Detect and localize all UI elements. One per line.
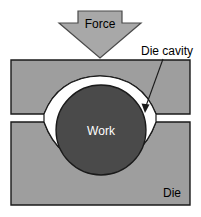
die-label: Die [163,186,181,200]
force-arrow: Force [59,11,141,58]
force-label: Force [85,17,116,31]
forging-diagram-svg: Force Die Work Die cavity [0,0,201,217]
work-label: Work [87,124,116,138]
die-cavity-label: Die cavity [141,44,193,58]
workpiece: Work [56,85,146,175]
figure-container: Force Die Work Die cavity [0,0,201,217]
